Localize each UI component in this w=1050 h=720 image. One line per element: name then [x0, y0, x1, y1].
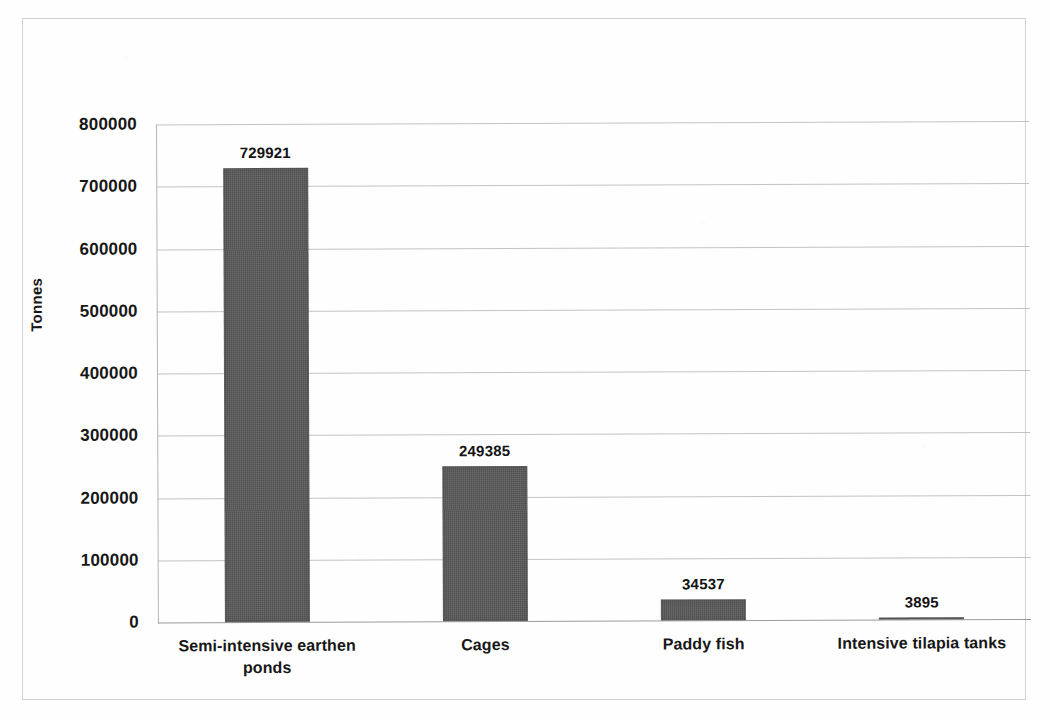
bar-chart: Tonnes 800000700000600000500000400000300…	[0, 0, 1050, 720]
y-tick-label: 500000	[20, 302, 138, 319]
x-axis-category-labels: Semi-intensive earthenpondsCagesPaddy fi…	[158, 632, 1031, 705]
x-category-label: Semi-intensive earthenponds	[162, 635, 372, 679]
x-category-line: Intensive tilapia tanks	[817, 632, 1027, 654]
y-tick-label: 100000	[21, 551, 139, 568]
gridline-800000	[156, 121, 1029, 125]
bar-value-label: 3895	[852, 593, 992, 611]
y-tick-label: 600000	[19, 240, 137, 257]
x-category-label: Cages	[380, 634, 590, 656]
bar-value-label: 729921	[195, 143, 335, 161]
y-tick-label: 300000	[20, 427, 138, 444]
plot-area: 729921249385345373895	[156, 121, 1031, 622]
x-category-label: Intensive tilapia tanks	[817, 632, 1027, 654]
x-category-line: ponds	[162, 656, 372, 678]
bar[interactable]	[223, 167, 310, 622]
x-category-label: Paddy fish	[598, 633, 808, 655]
x-category-line: Semi-intensive earthen	[162, 635, 372, 657]
scanned-page: Tonnes 800000700000600000500000400000300…	[0, 0, 1050, 720]
bar-value-label: 249385	[415, 442, 555, 460]
y-tick-label: 0	[21, 613, 139, 630]
y-tick-label: 700000	[19, 178, 137, 195]
x-category-line: Cages	[380, 634, 590, 656]
bar[interactable]	[879, 617, 964, 620]
bar[interactable]	[442, 466, 528, 622]
y-tick-label: 400000	[20, 364, 138, 381]
y-axis-tick-labels: 8000007000006000005000004000003000002000…	[17, 124, 139, 622]
x-category-line: Paddy fish	[598, 633, 808, 655]
bar[interactable]	[661, 599, 746, 621]
y-tick-label: 800000	[19, 115, 137, 132]
y-tick-label: 200000	[20, 489, 138, 506]
bar-value-label: 34537	[633, 575, 773, 593]
